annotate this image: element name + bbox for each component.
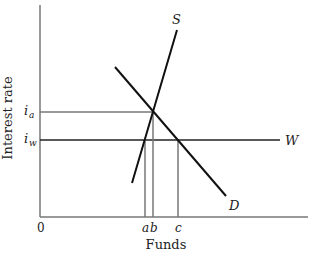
x-tick-a: a [142,221,149,235]
x-axis-label: Funds [146,237,187,252]
demand-curve [115,67,226,196]
world-rate-label: W [285,133,300,148]
demand-label: D [228,198,240,213]
y-axis-label: Interest rate [0,76,15,160]
loanable-funds-diagram: S D W i a i w 0 a b c Funds Interest rat… [0,0,316,255]
x-tick-b: b [150,221,158,235]
supply-label: S [172,12,181,27]
iw-sub: w [29,138,37,148]
iw-base: i [24,131,28,146]
ia-sub: a [29,110,34,120]
supply-curve [132,30,177,183]
origin-label: 0 [37,221,45,235]
ia-base: i [24,103,28,118]
x-tick-c: c [175,221,182,235]
